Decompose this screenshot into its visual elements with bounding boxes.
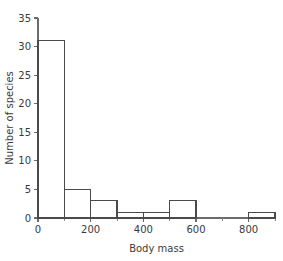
y-tick-label: 35 [18,13,31,24]
y-tick-label: 15 [18,127,31,138]
y-tick-label: 0 [25,213,31,224]
x-tick-label: 0 [35,224,41,235]
x-axis-title: Body mass [129,243,184,254]
x-tick-label: 400 [134,224,153,235]
chart-canvas: 05101520253035 0200400600800 Number of s… [0,0,283,261]
y-tick-label: 10 [18,155,31,166]
x-tick-label: 600 [186,224,205,235]
x-tick-label: 200 [81,224,100,235]
y-tick-label: 25 [18,70,31,81]
y-tick-label: 30 [18,41,31,52]
y-tick-label: 5 [25,184,31,195]
x-tick-label: 800 [239,224,258,235]
histogram-figure: 05101520253035 0200400600800 Number of s… [0,0,283,261]
chart-background [0,0,283,261]
y-axis-title: Number of species [4,71,15,165]
y-tick-label: 20 [18,98,31,109]
